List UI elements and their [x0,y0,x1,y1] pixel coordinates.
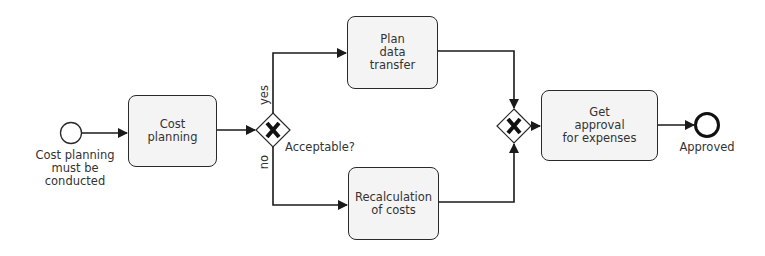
flow-no [273,147,347,205]
task-get-approval[interactable]: Get approval for expenses [541,90,658,161]
task-cost-planning[interactable]: Cost planning [128,95,217,167]
task-label: Cost planning [148,118,198,144]
start-event-label: Cost planning must be conducted [20,149,130,188]
bpmn-diagram: Cost planning must be conducted Cost pla… [0,0,765,256]
flow-recalc-to-join [439,144,514,202]
exclusive-gateway-join-icon[interactable] [497,109,531,143]
flow-label-yes: yes [257,85,271,105]
gateway-label: Acceptable? [285,141,355,154]
flow-label-no: no [257,155,271,169]
flow-yes [273,53,346,113]
task-label: Recalculation of costs [355,191,432,217]
end-event-icon[interactable] [696,114,719,137]
start-event-icon[interactable] [61,123,82,144]
task-plan-data-transfer[interactable]: Plan data transfer [347,16,438,89]
task-recalculation-of-costs[interactable]: Recalculation of costs [348,167,439,240]
task-label: Get approval for expenses [563,106,637,145]
end-event-label: Approved [672,141,742,154]
task-label: Plan data transfer [370,33,415,72]
flow-plan-to-join [438,51,514,108]
